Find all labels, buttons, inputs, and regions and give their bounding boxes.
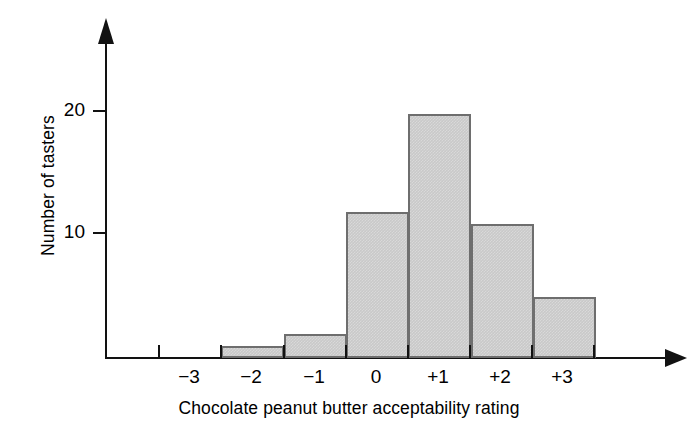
bar-plus2 (471, 224, 534, 358)
y-tick-mark (93, 110, 106, 112)
y-tick-mark (93, 232, 106, 234)
y-tick-group-10: 10 (0, 232, 107, 234)
x-tick-label-zero: 0 (346, 366, 406, 388)
bar-plus1 (408, 114, 471, 358)
y-axis-arrow-icon (98, 18, 114, 44)
x-tick-label-plus2: +2 (470, 366, 530, 388)
x-tick-mark (345, 345, 347, 358)
y-tick-label: 10 (39, 222, 85, 241)
x-tick-label-plus1: +1 (408, 366, 468, 388)
x-tick-mark (220, 345, 222, 358)
y-tick-label: 20 (39, 100, 85, 119)
x-tick-label-plus3: +3 (532, 366, 592, 388)
x-tick-mark (407, 345, 409, 358)
bar-plus3 (533, 297, 596, 358)
bar-zero (346, 212, 409, 358)
x-axis-arrow-icon (665, 349, 687, 367)
x-tick-mark (593, 345, 595, 358)
y-axis-line (105, 40, 107, 359)
y-tick-group-20: 20 (0, 110, 107, 112)
x-tick-label-minus1: −1 (284, 366, 344, 388)
x-tick-label-minus3: −3 (159, 366, 219, 388)
x-tick-mark (283, 345, 285, 358)
bar-minus1 (284, 334, 347, 358)
bar-minus2 (221, 346, 284, 358)
x-tick-mark (531, 345, 533, 358)
x-axis-title: Chocolate peanut butter acceptability ra… (0, 398, 698, 419)
x-tick-label-minus2: −2 (221, 366, 281, 388)
x-tick-mark (469, 345, 471, 358)
histogram-figure: Number of tasters 10 20 −3 −2 −1 0 +1 +2… (0, 0, 698, 443)
x-tick-mark (158, 345, 160, 358)
